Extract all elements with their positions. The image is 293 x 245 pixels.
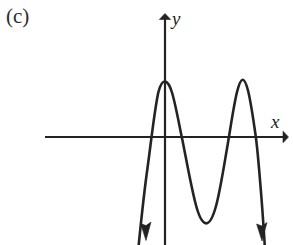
- function-curve: [139, 80, 265, 245]
- figure-container: (c) y x: [0, 0, 293, 245]
- curve-left-arrowhead-icon: [141, 222, 151, 241]
- x-axis-arrowhead-icon: [283, 131, 289, 143]
- x-axis-label: x: [271, 112, 279, 131]
- y-axis-label: y: [172, 9, 180, 28]
- curve-group: [139, 80, 267, 245]
- axes-group: [45, 14, 289, 245]
- figure-canvas: [0, 0, 293, 245]
- part-label: (c): [6, 6, 29, 27]
- y-axis-arrowhead-icon: [159, 14, 170, 20]
